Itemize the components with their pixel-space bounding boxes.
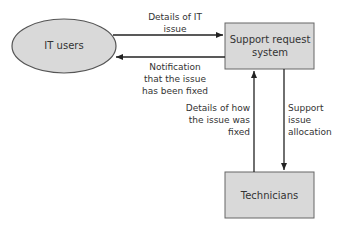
flow-label-line: Support	[288, 102, 342, 114]
flow-label-allocation: Support issue allocation	[288, 102, 342, 138]
flow-label-line: the issue was	[170, 114, 250, 126]
flow-label-line: Details of how	[170, 102, 250, 114]
support-system-label: Support request system	[228, 33, 312, 59]
flow-label-fixed-notification: Notification that the issue has been fix…	[125, 61, 225, 97]
flow-label-line: has been fixed	[125, 85, 225, 97]
flow-label-line: fixed	[170, 126, 250, 138]
flow-label-line: Notification	[125, 61, 225, 73]
flow-label-issue-details: Details of IT issue	[130, 11, 220, 35]
flow-label-line: that the issue	[125, 73, 225, 85]
flow-label-line: allocation	[288, 126, 342, 138]
flow-label-line: issue	[288, 114, 342, 126]
flow-label-line: issue	[130, 23, 220, 35]
flow-label-line: Details of IT	[130, 11, 220, 23]
technicians-label: Technicians	[225, 189, 314, 202]
data-flow-diagram: IT users Support request system Technici…	[0, 0, 342, 228]
it-users-label: IT users	[24, 39, 104, 52]
support-system-label-text: Support request system	[230, 34, 311, 58]
flow-label-fix-details: Details of how the issue was fixed	[170, 102, 250, 138]
